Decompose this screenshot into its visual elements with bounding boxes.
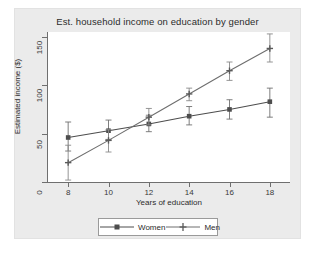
legend-label-women: Women [138, 223, 165, 232]
x-tick-mark [230, 183, 231, 187]
legend-marker-women-icon [99, 222, 135, 232]
plot-svg [48, 32, 290, 182]
legend-item-men: Men [165, 222, 220, 232]
x-tick-mark [149, 183, 150, 187]
x-axis-line [47, 182, 290, 183]
legend-marker-men-icon [165, 222, 201, 232]
y-axis-line [47, 32, 48, 183]
x-tick-label: 8 [58, 188, 78, 197]
x-tick-label: 18 [260, 188, 280, 197]
x-tick-mark [68, 183, 69, 187]
y-tick-label: 0 [35, 181, 44, 205]
y-axis-title: Estimated income ($) [13, 49, 22, 145]
x-tick-label: 14 [179, 188, 199, 197]
x-tick-label: 10 [99, 188, 119, 197]
x-tick-mark [109, 183, 110, 187]
x-tick-mark [270, 183, 271, 187]
legend-item-women: Women [99, 222, 165, 232]
y-tick-label: 50 [35, 132, 44, 156]
chart-title: Est. household income on education by ge… [14, 16, 301, 27]
series-women [65, 88, 273, 151]
chart-screenshot: Est. household income on education by ge… [0, 0, 315, 254]
x-axis-title: Years of education [48, 198, 290, 207]
x-tick-mark [189, 183, 190, 187]
y-tick-label: 150 [35, 35, 44, 59]
y-tick-label: 100 [35, 84, 44, 108]
legend-label-men: Men [204, 223, 220, 232]
chart-legend: Women Men [98, 218, 218, 236]
plot-area [48, 32, 290, 182]
x-tick-label: 16 [220, 188, 240, 197]
x-tick-label: 12 [139, 188, 159, 197]
